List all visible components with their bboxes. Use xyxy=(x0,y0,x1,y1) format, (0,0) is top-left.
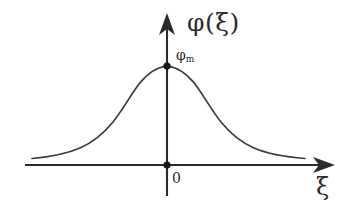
x-axis-label: ξ xyxy=(316,175,329,199)
peak-amplitude-subscript: m xyxy=(186,54,195,64)
peak-point-marker xyxy=(163,62,170,69)
origin-point-marker xyxy=(163,161,170,168)
phi-curve xyxy=(32,66,305,159)
origin-label: 0 xyxy=(172,171,181,185)
gaussian-curve-figure: φ(ξ) φm 0 ξ xyxy=(0,0,351,213)
peak-amplitude-symbol: φ xyxy=(176,47,186,63)
y-axis-label: φ(ξ) xyxy=(187,10,240,35)
peak-amplitude-label: φm xyxy=(176,48,194,64)
